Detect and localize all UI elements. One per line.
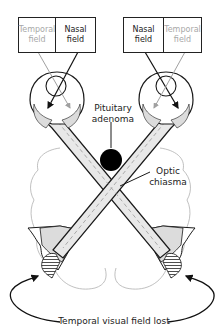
pituitary-adenoma-label: Pituitary adenoma [88,103,138,125]
temporal-field-lost-label: Temporal visual field lost [56,316,172,327]
left-temporal-field-box: Temporal field [18,17,56,53]
optic-chiasma-label: Optic chiasma [148,166,188,188]
left-eye [30,72,84,128]
chiasma-label-line1: Optic [148,166,188,177]
chiasma-label-line2: chiasma [148,177,188,188]
pituitary-adenoma [100,149,122,171]
right-nasal-field-label: Nasal field [124,25,163,45]
right-temporal-field-box: Temporal field [163,17,202,53]
pituitary-label-line1: Pituitary [88,103,138,114]
right-temporal-field-label: Temporal field [164,25,201,45]
pituitary-label-line2: adenoma [88,114,138,125]
left-temporal-field-label: Temporal field [19,25,56,45]
left-nasal-field-label: Nasal field [56,25,95,45]
left-nasal-field-box: Nasal field [55,17,96,53]
right-eye [139,72,193,128]
right-nasal-field-box: Nasal field [123,17,164,53]
